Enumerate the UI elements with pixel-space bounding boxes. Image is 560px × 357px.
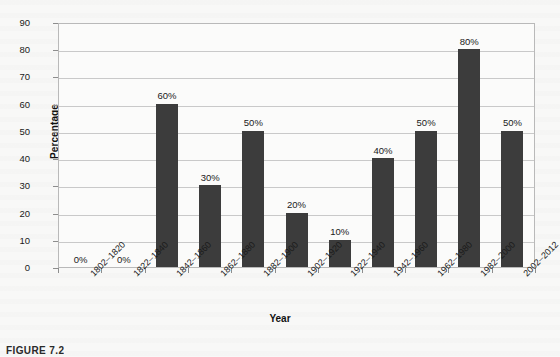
y-axis-tick-mark — [53, 105, 58, 106]
x-axis-tick-label: 1882–1900 — [262, 272, 268, 278]
bar-slot[interactable]: 30% — [189, 24, 232, 267]
y-axis-tick-mark — [53, 241, 58, 242]
y-axis-tick-label: 70 — [0, 72, 30, 82]
plot-area: 0%0%60%30%50%20%10%40%50%80%50% — [58, 23, 535, 268]
x-axis-tick-label: 1822–1840 — [132, 272, 138, 278]
bar-value-label: 50% — [503, 118, 522, 128]
bar-value-label: 0% — [117, 255, 131, 265]
y-axis-tick-mark — [53, 186, 58, 187]
bar-chart: Percentage 0%0%60%30%50%20%10%40%50%80%5… — [0, 0, 560, 330]
bar-value-label: 50% — [417, 118, 436, 128]
bar-value-label: 20% — [287, 200, 306, 210]
bar[interactable] — [286, 213, 308, 267]
y-axis-tick-label: 0 — [0, 263, 30, 273]
bar-series: 0%0%60%30%50%20%10%40%50%80%50% — [59, 24, 534, 267]
bar-value-label: 80% — [460, 37, 479, 47]
x-axis-tick-label: 1942–1960 — [392, 272, 398, 278]
bar-value-label: 50% — [244, 118, 263, 128]
x-axis-tick-label: 1862–1880 — [219, 272, 225, 278]
x-axis-tick-label: 1842–1860 — [175, 272, 181, 278]
bar-slot[interactable]: 0% — [102, 24, 145, 267]
bar[interactable] — [458, 49, 480, 267]
bar-value-label: 60% — [157, 91, 176, 101]
y-axis-tick-mark — [53, 23, 58, 24]
x-axis-title: Year — [0, 313, 560, 324]
x-axis-tick-label: 1902–1920 — [306, 272, 312, 278]
y-axis-tick-mark — [53, 159, 58, 160]
y-axis-tick-mark — [53, 50, 58, 51]
bar-slot[interactable]: 50% — [405, 24, 448, 267]
bar-slot[interactable]: 50% — [232, 24, 275, 267]
y-axis-tick-label: 10 — [0, 236, 30, 246]
y-axis-tick-label: 50 — [0, 127, 30, 137]
bar-slot[interactable]: 20% — [275, 24, 318, 267]
bar-slot[interactable]: 0% — [59, 24, 102, 267]
x-axis-tick-label: 1962–1980 — [436, 272, 442, 278]
figure-page: Percentage 0%0%60%30%50%20%10%40%50%80%5… — [0, 0, 560, 357]
x-axis-tick-label: 1922–1940 — [349, 272, 355, 278]
x-axis-tick-label: 1802–1820 — [89, 272, 95, 278]
bar-value-label: 40% — [373, 146, 392, 156]
y-axis-tick-label: 40 — [0, 154, 30, 164]
y-axis-tick-mark — [53, 268, 58, 269]
bar-slot[interactable]: 40% — [361, 24, 404, 267]
bar-slot[interactable]: 80% — [448, 24, 491, 267]
figure-caption: FIGURE 7.2 — [6, 345, 64, 357]
y-axis-tick-label: 20 — [0, 209, 30, 219]
bar-value-label: 0% — [74, 255, 88, 265]
bar-slot[interactable]: 50% — [491, 24, 534, 267]
y-axis-tick-mark — [53, 132, 58, 133]
bar-slot[interactable]: 60% — [145, 24, 188, 267]
y-axis-tick-label: 30 — [0, 181, 30, 191]
x-axis-tick-label: 2002–2012 — [522, 272, 528, 278]
bar-value-label: 30% — [201, 173, 220, 183]
bar-value-label: 10% — [330, 227, 349, 237]
x-axis-tick-label: 1982–2000 — [479, 272, 485, 278]
y-axis-tick-label: 90 — [0, 18, 30, 28]
bar-slot[interactable]: 10% — [318, 24, 361, 267]
y-axis-tick-mark — [53, 214, 58, 215]
y-axis-tick-mark — [53, 77, 58, 78]
y-axis-tick-label: 60 — [0, 100, 30, 110]
y-axis-tick-label: 80 — [0, 45, 30, 55]
